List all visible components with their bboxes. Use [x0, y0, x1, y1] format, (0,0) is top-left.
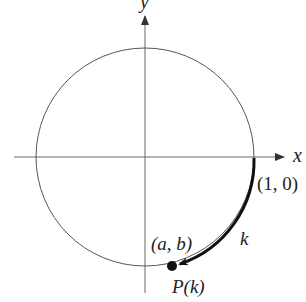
unit-circle-diagram: y x (1, 0) k (a, b) P(k) [0, 0, 306, 302]
end-coord-label: (a, b) [151, 233, 192, 255]
point-p [167, 261, 177, 271]
x-axis-label: x [292, 144, 302, 166]
start-point-label: (1, 0) [257, 173, 298, 195]
y-axis-label: y [138, 0, 149, 13]
arc-length-label: k [240, 228, 249, 249]
end-point-label: P(k) [171, 276, 205, 298]
